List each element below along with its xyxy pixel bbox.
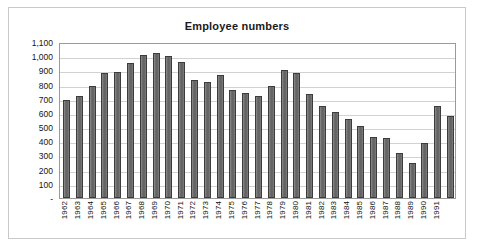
bar: [370, 137, 377, 198]
bar: [127, 63, 134, 198]
bar: [89, 86, 96, 198]
x-axis-tick-label: 1976: [241, 201, 249, 219]
chart-container: Employee numbers 1,1001,0009008007006005…: [8, 7, 466, 239]
y-axis-tick-label: 1,000: [32, 53, 53, 62]
bar: [101, 73, 108, 198]
y-axis-labels: 1,1001,000900800700600500400300200100-: [9, 43, 57, 199]
y-axis-tick-label: 300: [39, 152, 53, 161]
y-axis-tick-label: 200: [39, 166, 53, 175]
x-axis-tick-label: 1971: [177, 201, 185, 219]
bar: [153, 53, 160, 198]
x-axis-tick-label: 1970: [164, 201, 172, 219]
x-axis-tick-label: 1984: [343, 201, 351, 219]
bar: [229, 90, 236, 198]
bar: [447, 116, 454, 198]
bar: [63, 100, 70, 198]
bar: [421, 143, 428, 198]
bar: [319, 106, 326, 198]
x-axis-tick-label: 1964: [87, 201, 95, 219]
bar: [255, 96, 262, 198]
bar: [434, 106, 441, 198]
x-axis-tick-label: 1967: [125, 201, 133, 219]
bar: [345, 119, 352, 198]
chart-title: Employee numbers: [9, 20, 465, 32]
x-axis-tick-label: 1973: [202, 201, 210, 219]
x-axis-tick-label: 1969: [151, 201, 159, 219]
bar: [165, 56, 172, 198]
x-axis-labels: 1962196319641965196619671968196919701971…: [59, 201, 456, 249]
bar: [178, 62, 185, 198]
x-axis-tick-label: 1991: [433, 201, 441, 219]
x-axis-tick-label: 1981: [305, 201, 313, 219]
x-axis-tick-label: 1979: [279, 201, 287, 219]
bar: [204, 82, 211, 198]
y-axis-tick-label: 100: [39, 181, 53, 190]
x-axis-tick-label: 1966: [113, 201, 121, 219]
y-axis-tick-label: 600: [39, 110, 53, 119]
bar: [281, 70, 288, 198]
x-axis-tick-label: 1989: [407, 201, 415, 219]
bar: [306, 94, 313, 198]
x-axis-tick-label: 1965: [100, 201, 108, 219]
x-axis-tick-label: 1987: [382, 201, 390, 219]
bar: [217, 75, 224, 198]
bar: [383, 138, 390, 198]
x-axis-tick-label: 1962: [61, 201, 69, 219]
bar: [396, 153, 403, 198]
x-axis-tick-label: 1983: [330, 201, 338, 219]
bar: [332, 112, 339, 199]
x-axis-tick-label: 1982: [318, 201, 326, 219]
plot-area: [59, 43, 456, 199]
x-axis-tick-label: 1990: [420, 201, 428, 219]
x-axis-tick-label: 1985: [356, 201, 364, 219]
x-axis-tick-label: 1974: [215, 201, 223, 219]
y-axis-tick-label: -: [50, 195, 53, 204]
bar: [268, 86, 275, 198]
y-axis-tick-label: 500: [39, 124, 53, 133]
y-axis-tick-label: 800: [39, 81, 53, 90]
x-axis-tick-label: 1986: [369, 201, 377, 219]
bar: [140, 55, 147, 198]
bar: [191, 80, 198, 198]
x-axis-tick-label: 1988: [394, 201, 402, 219]
x-axis-tick-label: 1968: [138, 201, 146, 219]
x-axis-tick-label: 1975: [228, 201, 236, 219]
x-axis-tick-label: 1978: [266, 201, 274, 219]
y-axis-tick-label: 400: [39, 138, 53, 147]
bar: [409, 163, 416, 198]
axis-divider: [59, 238, 458, 239]
bar-series: [60, 44, 455, 198]
y-axis-tick-label: 700: [39, 95, 53, 104]
bar: [357, 126, 364, 198]
x-axis-tick-label: 1980: [292, 201, 300, 219]
bar: [242, 93, 249, 198]
y-axis-tick-label: 900: [39, 67, 53, 76]
bar: [114, 72, 121, 198]
bar: [76, 96, 83, 198]
y-axis-tick-label: 1,100: [32, 39, 53, 48]
bar: [293, 73, 300, 198]
x-axis-tick-label: 1977: [254, 201, 262, 219]
x-axis-tick-label: 1972: [189, 201, 197, 219]
x-axis-tick-label: 1963: [74, 201, 82, 219]
